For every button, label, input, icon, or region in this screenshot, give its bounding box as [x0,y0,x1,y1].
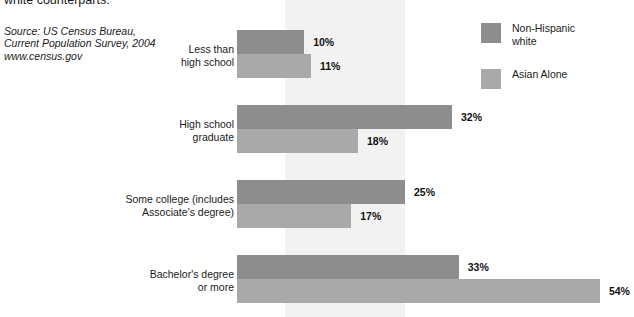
bar-value-label: 25% [414,186,435,198]
category-label-high-school-graduate: High school graduate [34,118,234,143]
legend-label-non-hispanic-white: Non-Hispanic white [512,22,575,47]
bar-value-label: 33% [468,261,489,273]
bar-value-label: 54% [609,285,630,297]
bar-value-label: 11% [320,60,340,72]
bar-asian-alone-less-than-high-school[interactable] [237,54,311,78]
bar-asian-alone-high-school-graduate[interactable] [237,129,358,153]
chart-legend: Non-Hispanic white Asian Alone [481,22,575,110]
bar-non-hispanic-white-high-school-graduate[interactable] [237,105,452,129]
category-label-some-college-includes-associate-s-degree: Some college (includes Associate's degre… [34,193,234,218]
bar-asian-alone-bachelor-s-degree-or-more[interactable] [237,279,600,303]
source-line-2: Current Population Survey, 2004 [4,37,219,49]
bar-non-hispanic-white-bachelor-s-degree-or-more[interactable] [237,255,459,279]
bar-non-hispanic-white-some-college-includes-associate-s-degree[interactable] [237,180,405,204]
legend-swatch-asian-alone [481,69,501,89]
legend-item-asian-alone: Asian Alone [481,68,575,89]
category-label-bachelor-s-degree-or-more: Bachelor's degree or more [34,268,234,293]
bar-value-label: 17% [360,210,381,222]
bar-non-hispanic-white-less-than-high-school[interactable] [237,30,304,54]
bar-value-label: 18% [367,135,388,147]
bar-asian-alone-some-college-includes-associate-s-degree[interactable] [237,204,351,228]
legend-label-asian-alone: Asian Alone [512,68,567,81]
source-citation: Source: US Census Bureau, Current Popula… [4,25,219,62]
bar-value-label: 10% [313,36,334,48]
source-line-3: www.census.gov [4,50,219,62]
caption-tail-text: white counterparts. [4,0,234,8]
bar-value-label: 32% [461,111,482,123]
caption-overflow-line: white counterparts. [4,0,234,8]
legend-swatch-non-hispanic-white [481,23,501,43]
legend-item-non-hispanic-white: Non-Hispanic white [481,22,575,47]
chart-figure: white counterparts. Source: US Census Bu… [0,0,634,317]
source-line-1: Source: US Census Bureau, [4,25,219,37]
